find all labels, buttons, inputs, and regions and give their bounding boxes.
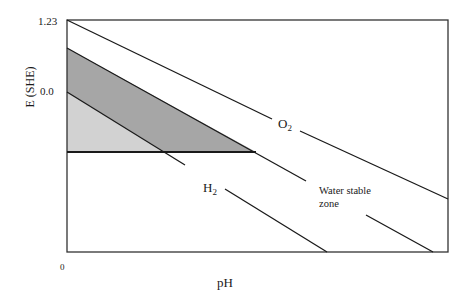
- y-tick-1-23: 1.23: [38, 15, 58, 27]
- y-tick-0-0: 0.0: [40, 85, 54, 97]
- x-tick-0: 0: [60, 262, 65, 272]
- h2-line-lower: [225, 189, 327, 252]
- middle-line-lower: [366, 215, 433, 252]
- o2-label: O2: [278, 116, 292, 133]
- water-stable-zone-label-line1: Water stable: [319, 185, 371, 196]
- h2-label: H2: [203, 180, 217, 197]
- water-stable-zone-label-line2: zone: [319, 198, 339, 209]
- x-axis-label: pH: [217, 275, 233, 290]
- pourbaix-diagram: 1.23 0.0 0 E (SHE) pH O2 H2 Water stable…: [0, 0, 472, 291]
- y-axis-label: E (SHE): [23, 67, 37, 108]
